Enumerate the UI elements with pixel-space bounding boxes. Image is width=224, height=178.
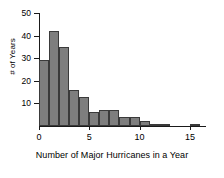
histogram-bar <box>59 47 69 126</box>
histogram-bar <box>160 124 170 126</box>
x-tick-label: 15 <box>180 133 200 142</box>
histogram-figure: # of Years Number of Major Hurricanes in… <box>0 0 224 178</box>
y-tick-label: 30 <box>9 54 31 63</box>
histogram-bar <box>119 117 129 126</box>
plot-area <box>39 13 205 126</box>
y-tick-label: 10 <box>9 99 31 108</box>
histogram-bar <box>69 90 79 126</box>
histogram-bar <box>39 60 49 126</box>
y-tick-label: 40 <box>9 32 31 41</box>
histogram-bar <box>79 97 89 126</box>
x-axis-line <box>39 126 206 127</box>
x-tick <box>89 126 90 130</box>
histogram-bar <box>89 112 99 126</box>
x-tick <box>39 126 40 130</box>
histogram-bar <box>109 110 119 126</box>
histogram-bar <box>190 124 200 126</box>
histogram-bar <box>150 124 160 126</box>
x-tick-label: 5 <box>79 133 99 142</box>
histogram-bar <box>140 121 150 126</box>
x-tick <box>190 126 191 130</box>
x-axis-title: Number of Major Hurricanes in a Year <box>0 150 224 160</box>
y-tick-label: 50 <box>9 9 31 18</box>
histogram-bar <box>49 31 59 126</box>
x-tick-label: 0 <box>29 133 49 142</box>
y-tick-label: 20 <box>9 77 31 86</box>
histogram-bar <box>130 117 140 126</box>
histogram-bar <box>99 110 109 126</box>
x-tick-label: 10 <box>130 133 150 142</box>
x-tick <box>140 126 141 130</box>
